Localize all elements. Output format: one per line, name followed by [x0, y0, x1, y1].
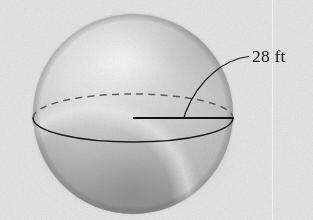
figure-canvas — [0, 0, 313, 220]
sphere-body — [33, 14, 233, 214]
sphere-figure: 28 ft — [0, 0, 313, 220]
dimension-label: 28 ft — [252, 46, 286, 66]
